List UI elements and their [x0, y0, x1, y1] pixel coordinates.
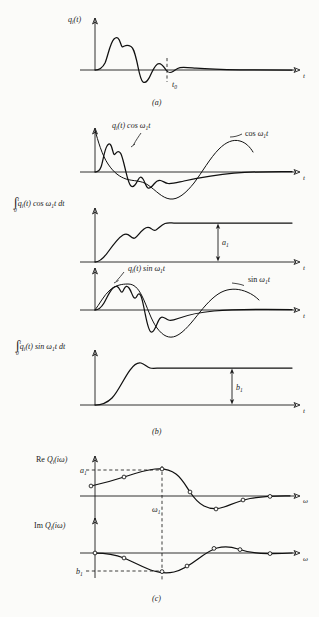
panel-c-w1-label: ω1	[152, 505, 161, 515]
panel-c-imag-marker	[185, 564, 189, 568]
panel-b-caption: (b)	[152, 427, 162, 436]
panel-c-imag-marker	[268, 552, 272, 556]
panel-b1-cosine-label: cos ω1t	[245, 129, 269, 139]
panel-c-imag-x-axis-label: ω	[303, 555, 308, 563]
panel-c-real: Re Qi(iω) a1 ω1 ω	[36, 455, 308, 581]
panel-a: qi(t) t0 t (a)	[68, 15, 306, 107]
panel-b4-integral-curve	[95, 363, 292, 405]
panel-b2-y-axis-label: ∫t0qi(t) cos ω1t dt	[13, 194, 65, 213]
panel-c-real-marker	[188, 490, 192, 494]
panel-c-imag-marker	[93, 551, 97, 555]
panel-c-real-curve	[91, 469, 290, 509]
panel-b2-x-axis-label: t	[303, 264, 306, 272]
panel-b2-a1-label: a1	[222, 238, 229, 248]
panel-b-plot-sin-product: qi(t) sin ω1t sin ω1t t	[80, 264, 306, 337]
panel-c-imag-marker	[212, 547, 216, 551]
panel-a-curve	[95, 38, 292, 83]
panel-c-real-x-axis-label: ω	[303, 497, 308, 505]
panel-c-imag-y-axis-label: Im Qi(iω)	[34, 521, 66, 531]
panel-b4-x-axis-label: t	[303, 407, 306, 415]
panel-b3-product-leader	[117, 272, 125, 281]
panel-a-x-axis-label: t	[303, 72, 306, 80]
panel-c-real-marker	[241, 498, 245, 502]
panel-b3-x-axis-label: t	[303, 312, 306, 320]
panel-a-y-axis-label: qi(t)	[68, 15, 81, 25]
panel-c-real-marker	[160, 467, 164, 471]
panel-c-caption: (c)	[152, 594, 161, 603]
panel-b4-b1-label: b1	[236, 383, 243, 393]
panel-b3-product-label: qi(t) sin ω1t	[128, 264, 166, 274]
panel-b-plot-cos-integral: ∫t0qi(t) cos ω1t dt a1 t	[13, 194, 306, 272]
figure-root: qi(t) t0 t (a) qi(t) cos ω1t cos ω1t t ∫	[0, 0, 319, 617]
panel-c-imag-marker	[238, 548, 242, 552]
panel-b1-x-axis-label: t	[303, 174, 306, 182]
panel-b3-sin-leader	[232, 283, 244, 286]
panel-a-t0-label: t0	[172, 80, 177, 90]
panel-b1-cos-leader	[230, 134, 242, 137]
panel-c-real-marker	[122, 475, 126, 479]
panel-c-imag-marker	[160, 570, 164, 574]
panel-c-imag: Im Qi(iω) b1 ω (c)	[34, 518, 308, 603]
panel-c-b1-label: b1	[76, 567, 83, 577]
panel-b3-sine-label: sin ω1t	[248, 275, 271, 285]
panel-b3-sine-reference	[95, 284, 259, 337]
panel-b-plot-sin-integral: ∫t0qi(t) sin ω1t dt b1 t (b)	[15, 337, 306, 436]
panel-c-real-y-axis-label: Re Qi(iω)	[36, 455, 68, 465]
panel-b1-product-leader	[134, 133, 142, 145]
panel-c-real-marker	[89, 484, 93, 488]
panel-a-caption: (a)	[152, 98, 162, 107]
panel-b4-y-axis-label: ∫t0qi(t) sin ω1t dt	[15, 337, 66, 356]
panel-b1-product-label: qi(t) cos ω1t	[112, 121, 151, 131]
panel-b3-product-curve	[95, 286, 292, 332]
panel-b2-integral-curve	[95, 223, 292, 262]
panel-c-a1-label: a1	[80, 466, 87, 476]
panel-b1-product-leader-arrow	[131, 144, 135, 147]
panel-b1-cosine-reference	[95, 130, 253, 199]
panel-c-imag-marker	[122, 556, 126, 560]
panel-b3-product-leader-arrow	[114, 281, 119, 284]
panel-c-real-marker	[268, 495, 272, 499]
panel-b1-product-curve	[95, 144, 292, 188]
panel-c-real-marker	[214, 507, 218, 511]
panel-b-plot-cos-product: qi(t) cos ω1t cos ω1t t	[80, 121, 306, 199]
